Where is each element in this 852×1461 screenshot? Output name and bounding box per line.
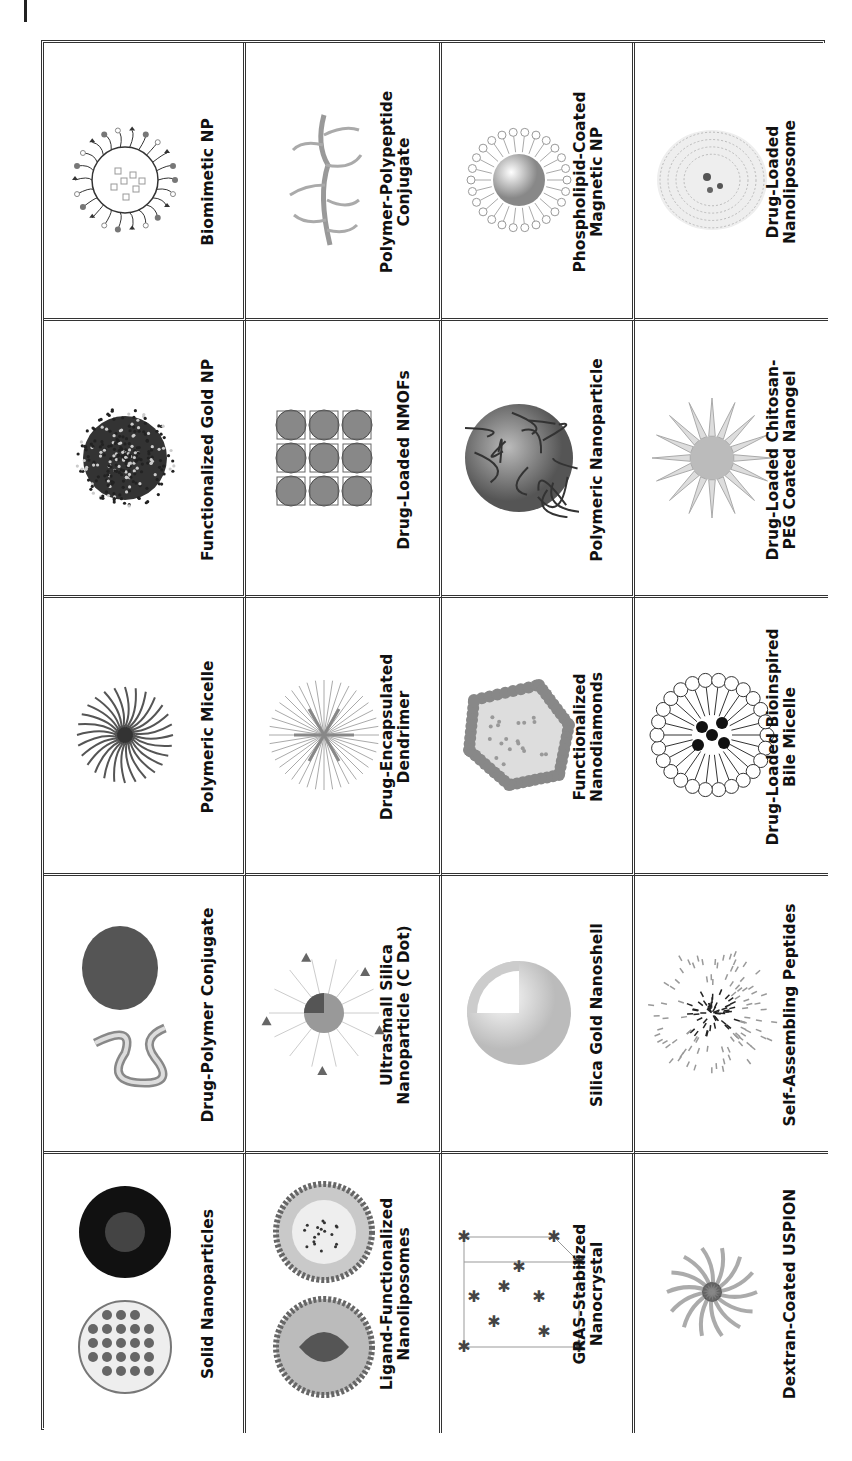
nanoparticle-cell: Drug-Loaded NMOFs bbox=[246, 321, 442, 598]
nanoshell-icon bbox=[459, 953, 579, 1077]
cell-label-line: Dextran-Coated USPION bbox=[782, 1188, 799, 1398]
nanoparticle-cell: Phospholipid-CoatedMagnetic NP bbox=[442, 43, 635, 321]
cell-label: Drug-Polymer Conjugate bbox=[200, 907, 217, 1122]
cell-label: Dextran-Coated USPION bbox=[782, 1188, 799, 1398]
solid-nanoparticles-icon bbox=[75, 1177, 175, 1411]
cell-label-line: Magnetic NP bbox=[589, 91, 606, 272]
cell-label-line: Nanoparticle (C Dot) bbox=[396, 925, 413, 1104]
nanoparticle-cell: Drug-Polymer Conjugate bbox=[44, 876, 246, 1154]
cell-label: Polymer-PolypeptideConjugate bbox=[379, 91, 413, 274]
svg-text:✱: ✱ bbox=[487, 1311, 500, 1330]
cell-label: Biomimetic NP bbox=[200, 118, 217, 246]
cell-label-line: Functionalized bbox=[572, 672, 589, 802]
cell-label: Functionalized Gold NP bbox=[200, 358, 217, 560]
cell-label-line: GRAS-Stabilized bbox=[572, 1223, 589, 1364]
svg-text:✱: ✱ bbox=[532, 1286, 545, 1305]
nanoparticle-cell: FunctionalizedNanodiamonds bbox=[442, 598, 635, 876]
cell-label-line: Silica Gold Nanoshell bbox=[589, 923, 606, 1107]
cell-label: Ultrasmall SilicaNanoparticle (C Dot) bbox=[379, 925, 413, 1104]
nanoparticle-cell: Ultrasmall SilicaNanoparticle (C Dot) bbox=[246, 876, 442, 1154]
cell-label-line: Biomimetic NP bbox=[200, 118, 217, 246]
nmof-icon bbox=[269, 403, 379, 517]
cell-label-line: Drug-Loaded Bioinspired bbox=[765, 628, 782, 845]
nanoparticle-grid: Biomimetic NPPolymer-PolypeptideConjugat… bbox=[41, 40, 825, 1430]
cell-label: Solid Nanoparticles bbox=[200, 1208, 217, 1378]
nanoparticle-cell: Drug-LoadedNanoliposome bbox=[635, 43, 828, 321]
nanoparticle-cell: Polymeric Nanoparticle bbox=[442, 321, 635, 598]
cell-label-line: Drug-Polymer Conjugate bbox=[200, 907, 217, 1122]
cell-label-line: Drug-Encapsulated bbox=[379, 654, 396, 821]
cell-label-line: Nanodiamonds bbox=[589, 672, 606, 802]
svg-text:✱: ✱ bbox=[547, 1226, 560, 1245]
nanoparticle-cell: Functionalized Gold NP bbox=[44, 321, 246, 598]
cell-label-line: Drug-Loaded Chitosan- bbox=[765, 359, 782, 560]
cell-label-line: Nanocrystal bbox=[589, 1223, 606, 1364]
cell-label: Polymeric Micelle bbox=[200, 660, 217, 813]
cell-label-line: Polymer-Polypeptide bbox=[379, 91, 396, 274]
nanoparticle-cell: Biomimetic NP bbox=[44, 43, 246, 321]
c-dot-icon bbox=[259, 948, 389, 1082]
cell-label-line: Ultrasmall Silica bbox=[379, 925, 396, 1104]
gold-np-icon bbox=[65, 398, 185, 522]
phospholipid-magnetic-np-icon bbox=[459, 120, 579, 244]
nanoparticle-cell: Dextran-Coated USPION bbox=[635, 1154, 828, 1433]
svg-text:✱: ✱ bbox=[497, 1276, 510, 1295]
nanoparticle-cell: Solid Nanoparticles bbox=[44, 1154, 246, 1433]
nanoparticle-cell: Drug-Loaded BioinspiredBile Micelle bbox=[635, 598, 828, 876]
cell-label-line: Self-Assembling Peptides bbox=[782, 904, 799, 1127]
cell-label: Drug-Loaded Chitosan-PEG Coated Nanogel bbox=[765, 359, 799, 560]
svg-text:✱: ✱ bbox=[467, 1286, 480, 1305]
drug-polymer-conjugate-icon bbox=[75, 913, 175, 1117]
cell-label-line: Drug-Loaded NMOFs bbox=[396, 370, 413, 550]
cell-label-line: Polymeric Nanoparticle bbox=[589, 358, 606, 562]
nanoparticle-cell: ✱✱✱✱✱✱✱✱✱✱✱GRAS-StabilizedNanocrystal bbox=[442, 1154, 635, 1433]
peptide-assembly-icon bbox=[642, 943, 782, 1087]
cell-label: Drug-Loaded BioinspiredBile Micelle bbox=[765, 628, 799, 845]
cell-label: GRAS-StabilizedNanocrystal bbox=[572, 1223, 606, 1364]
cell-label-line: PEG Coated Nanogel bbox=[782, 359, 799, 560]
svg-text:✱: ✱ bbox=[457, 1336, 470, 1355]
nanoparticle-cell: Self-Assembling Peptides bbox=[635, 876, 828, 1154]
polymer-polypeptide-icon bbox=[279, 105, 369, 259]
cell-label-line: Polymeric Micelle bbox=[200, 660, 217, 813]
cell-label: Phospholipid-CoatedMagnetic NP bbox=[572, 91, 606, 272]
cell-label: Polymeric Nanoparticle bbox=[589, 358, 606, 562]
cell-label-line: Drug-Loaded bbox=[765, 120, 782, 244]
cell-label-line: Conjugate bbox=[396, 91, 413, 274]
cell-label-line: Solid Nanoparticles bbox=[200, 1208, 217, 1378]
cell-label-line: Nanoliposome bbox=[782, 120, 799, 244]
nanoparticle-cell: Silica Gold Nanoshell bbox=[442, 876, 635, 1154]
cell-label-line: Ligand-Functionalized bbox=[379, 1197, 396, 1390]
cell-label-line: Phospholipid-Coated bbox=[572, 91, 589, 272]
cell-label: Drug-LoadedNanoliposome bbox=[765, 120, 799, 244]
nanoparticle-cell: Ligand-FunctionalizedNanoliposomes bbox=[246, 1154, 442, 1433]
drug-loaded-nanoliposome-icon bbox=[652, 120, 772, 244]
uspion-icon bbox=[647, 1227, 777, 1361]
dendrimer-icon bbox=[264, 675, 384, 799]
nanoparticle-cell: Drug-EncapsulatedDendrimer bbox=[246, 598, 442, 876]
cell-label: Drug-Loaded NMOFs bbox=[396, 370, 413, 550]
bile-micelle-icon bbox=[647, 670, 777, 804]
nanoparticle-cell: Drug-Loaded Chitosan-PEG Coated Nanogel bbox=[635, 321, 828, 598]
biomimetic-np-icon bbox=[70, 125, 180, 239]
nanoparticle-cell: Polymer-PolypeptideConjugate bbox=[246, 43, 442, 321]
svg-text:✱: ✱ bbox=[537, 1321, 550, 1340]
cell-label-line: Functionalized Gold NP bbox=[200, 358, 217, 560]
nanoliposome-icon bbox=[269, 1177, 379, 1411]
polymeric-nanoparticle-icon bbox=[459, 398, 579, 522]
svg-text:✱: ✱ bbox=[512, 1256, 525, 1275]
cell-label-line: Nanoliposomes bbox=[396, 1197, 413, 1390]
cell-label: Silica Gold Nanoshell bbox=[589, 923, 606, 1107]
page-margin-bar bbox=[24, 0, 27, 22]
cell-label: Ligand-FunctionalizedNanoliposomes bbox=[379, 1197, 413, 1390]
svg-text:✱: ✱ bbox=[457, 1226, 470, 1245]
cell-label: Drug-EncapsulatedDendrimer bbox=[379, 654, 413, 821]
cell-label-line: Dendrimer bbox=[396, 654, 413, 821]
nanoparticle-cell: Polymeric Micelle bbox=[44, 598, 246, 876]
cell-label: Self-Assembling Peptides bbox=[782, 904, 799, 1127]
polymeric-micelle-icon bbox=[70, 680, 180, 794]
nanodiamond-icon bbox=[459, 675, 579, 799]
cell-label-line: Bile Micelle bbox=[782, 628, 799, 845]
cell-label: FunctionalizedNanodiamonds bbox=[572, 672, 606, 802]
nanogel-icon bbox=[647, 393, 777, 527]
